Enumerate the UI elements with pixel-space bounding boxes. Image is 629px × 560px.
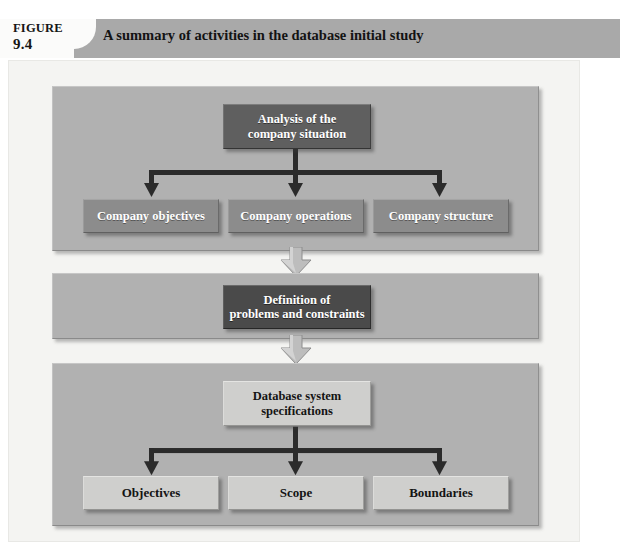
panel-analysis: Analysis of the company situation Compan… — [52, 86, 539, 251]
node-database-system-specifications[interactable]: Database system specifications — [223, 381, 371, 426]
flow-arrow-down-icon — [279, 335, 313, 365]
node-label: Database system specifications — [253, 389, 342, 418]
figure-body: Analysis of the company situation Compan… — [8, 60, 580, 542]
node-label: Scope — [280, 485, 313, 500]
node-company-structure[interactable]: Company structure — [373, 199, 509, 233]
figure-header-bar: FIGURE 9.4 A summary of activities in th… — [0, 19, 620, 58]
panel-specifications: Database system specifications Objective… — [52, 363, 539, 526]
figure-number: 9.4 — [13, 36, 77, 52]
node-objectives[interactable]: Objectives — [83, 476, 219, 510]
figure-label-notch-curve — [74, 19, 96, 49]
node-label: Analysis of the company situation — [248, 112, 346, 141]
node-boundaries[interactable]: Boundaries — [373, 476, 509, 510]
node-label: Company objectives — [97, 209, 205, 224]
panel-definition: Definition of problems and constraints — [52, 273, 539, 339]
figure-word: FIGURE — [13, 22, 77, 36]
node-label: Company structure — [389, 209, 493, 224]
node-scope[interactable]: Scope — [228, 476, 364, 510]
node-company-objectives[interactable]: Company objectives — [83, 199, 219, 233]
node-definition-of-problems-and-constraints[interactable]: Definition of problems and constraints — [223, 285, 371, 329]
node-label: Company operations — [240, 209, 351, 224]
figure-label: FIGURE 9.4 — [13, 22, 77, 52]
node-company-operations[interactable]: Company operations — [228, 199, 364, 233]
node-label: Boundaries — [409, 485, 473, 500]
figure-title: A summary of activities in the database … — [103, 27, 424, 44]
node-analysis-of-company-situation[interactable]: Analysis of the company situation — [223, 104, 371, 149]
node-label: Objectives — [122, 485, 180, 500]
node-label: Definition of problems and constraints — [229, 293, 364, 322]
